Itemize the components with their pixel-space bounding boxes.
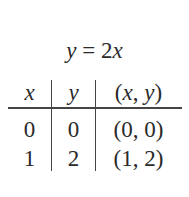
equation-equals: = 2 [77, 38, 113, 63]
header-xy-sep: , [133, 80, 145, 105]
header-xy-close: ) [154, 80, 162, 105]
equation-rhs-var: x [112, 38, 122, 63]
equation-lhs: y [66, 38, 76, 63]
table-cell-x: 0 [8, 117, 51, 143]
table-cell-x: 1 [8, 146, 51, 172]
header-xy-v2: y [144, 80, 154, 105]
header-xy: (x, y) [96, 80, 181, 106]
header-xy-v1: x [123, 80, 133, 105]
header-xy-open: ( [115, 80, 123, 105]
equation-title: y = 2x [0, 38, 189, 64]
table-cell-pair: (0, 0) [96, 117, 181, 143]
table-cell-y: 0 [52, 117, 95, 143]
table-cell-pair: (1, 2) [96, 146, 181, 172]
header-y: y [52, 80, 95, 106]
header-x: x [8, 80, 51, 106]
table-cell-y: 2 [52, 146, 95, 172]
